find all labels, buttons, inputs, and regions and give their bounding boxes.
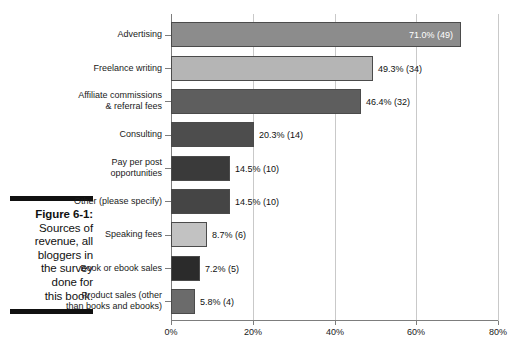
bar[interactable] bbox=[171, 89, 361, 114]
category-label: Affiliate commissions& referral fees bbox=[0, 90, 162, 112]
bar-chart: 0%20%40%60%80% 71.0% (49)49.3% (34)46.4%… bbox=[0, 0, 529, 355]
category-label: Pay per postopportunities bbox=[0, 157, 162, 179]
bar-row: 5.8% (4) bbox=[171, 289, 498, 314]
bar[interactable] bbox=[171, 189, 230, 214]
category-label: Other (please specify) bbox=[0, 196, 162, 207]
category-tick bbox=[165, 101, 171, 102]
category-label-line: Affiliate commissions bbox=[0, 90, 162, 101]
category-tick bbox=[165, 135, 171, 136]
bar-value-label: 14.5% (10) bbox=[235, 197, 279, 207]
bar-row: 46.4% (32) bbox=[171, 89, 498, 114]
figure-container: Figure 6-1: Sources of revenue, all blog… bbox=[0, 0, 529, 355]
category-tick bbox=[165, 68, 171, 69]
x-axis-tick-label: 60% bbox=[407, 327, 425, 337]
bar-row: 8.7% (6) bbox=[171, 222, 498, 247]
category-label-line: Advertising bbox=[0, 29, 162, 40]
category-label: Consulting bbox=[0, 129, 162, 140]
bar[interactable] bbox=[171, 156, 230, 181]
bar-value-label: 8.7% (6) bbox=[212, 230, 246, 240]
category-label-line: & referral fees bbox=[0, 101, 162, 112]
category-label: Advertising bbox=[0, 29, 162, 40]
x-axis-tick bbox=[253, 321, 254, 325]
bar[interactable] bbox=[171, 56, 373, 81]
x-axis-tick-label: 0% bbox=[164, 327, 177, 337]
bar-value-label: 49.3% (34) bbox=[378, 64, 422, 74]
category-label-line: Other (please specify) bbox=[0, 196, 162, 207]
bar-row: 14.5% (10) bbox=[171, 156, 498, 181]
x-axis-tick bbox=[498, 321, 499, 325]
category-tick bbox=[165, 301, 171, 302]
bar[interactable] bbox=[171, 222, 207, 247]
category-label-line: than books and ebooks) bbox=[0, 301, 162, 312]
category-tick bbox=[165, 168, 171, 169]
x-axis-tick bbox=[171, 321, 172, 325]
bar-row: 7.2% (5) bbox=[171, 256, 498, 281]
category-label: Freelance writing bbox=[0, 63, 162, 74]
category-tick bbox=[165, 201, 171, 202]
category-label-line: Freelance writing bbox=[0, 63, 162, 74]
category-label: Product sales (otherthan books and ebook… bbox=[0, 290, 162, 312]
x-axis-tick-label: 40% bbox=[326, 327, 344, 337]
bar-value-label: 7.2% (5) bbox=[205, 264, 239, 274]
category-tick bbox=[165, 235, 171, 236]
category-label-line: Pay per post bbox=[0, 157, 162, 168]
category-label-line: opportunities bbox=[0, 168, 162, 179]
bar-row: 14.5% (10) bbox=[171, 189, 498, 214]
category-label-line: Book or ebook sales bbox=[0, 263, 162, 274]
bar-row: 71.0% (49) bbox=[171, 22, 498, 47]
x-axis-tick bbox=[335, 321, 336, 325]
bar-row: 49.3% (34) bbox=[171, 56, 498, 81]
bar[interactable] bbox=[171, 122, 254, 147]
category-label-line: Product sales (other bbox=[0, 290, 162, 301]
bar-value-label: 46.4% (32) bbox=[366, 97, 410, 107]
x-axis-tick bbox=[416, 321, 417, 325]
bar-value-label: 14.5% (10) bbox=[235, 164, 279, 174]
gridline bbox=[498, 14, 499, 321]
x-axis-tick-label: 20% bbox=[244, 327, 262, 337]
bar[interactable] bbox=[171, 289, 195, 314]
category-tick bbox=[165, 35, 171, 36]
category-label-line: Speaking fees bbox=[0, 229, 162, 240]
bar-value-label: 71.0% (49) bbox=[409, 30, 453, 40]
bar-value-label: 5.8% (4) bbox=[200, 297, 234, 307]
x-axis-tick-label: 80% bbox=[489, 327, 507, 337]
bar[interactable] bbox=[171, 256, 200, 281]
bar-value-label: 20.3% (14) bbox=[259, 130, 303, 140]
bar-row: 20.3% (14) bbox=[171, 122, 498, 147]
category-label-line: Consulting bbox=[0, 129, 162, 140]
category-label: Book or ebook sales bbox=[0, 263, 162, 274]
category-label: Speaking fees bbox=[0, 229, 162, 240]
category-tick bbox=[165, 268, 171, 269]
